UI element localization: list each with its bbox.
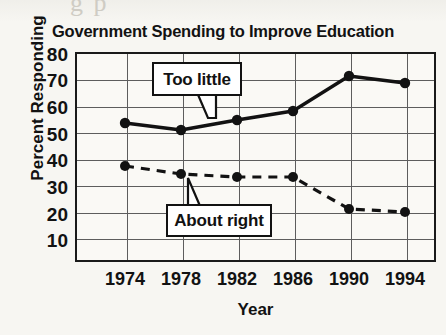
x-tick-1994: 1994 bbox=[375, 270, 435, 288]
x-tick-1982: 1982 bbox=[207, 270, 267, 288]
x-tick-1986: 1986 bbox=[263, 270, 323, 288]
callout-about-right[interactable]: About right bbox=[166, 204, 272, 237]
x-tick-1990: 1990 bbox=[319, 270, 379, 288]
point-about-right-1978 bbox=[176, 169, 186, 179]
point-too-little-1982 bbox=[232, 115, 242, 125]
chart-figure: g p Government Spending to Improve Educa… bbox=[0, 0, 446, 335]
point-about-right-1990 bbox=[344, 204, 354, 214]
point-about-right-1994 bbox=[400, 207, 410, 217]
callout-too-little[interactable]: Too little bbox=[152, 62, 242, 96]
point-too-little-1994 bbox=[400, 78, 410, 88]
point-too-little-1974 bbox=[120, 118, 130, 128]
point-too-little-1978 bbox=[176, 125, 186, 135]
point-too-little-1986 bbox=[288, 106, 298, 116]
x-axis-title: Year bbox=[75, 300, 436, 320]
point-too-little-1990 bbox=[344, 71, 354, 81]
point-about-right-1974 bbox=[120, 161, 130, 171]
x-tick-1974: 1974 bbox=[95, 270, 155, 288]
callout-tail-about-right bbox=[188, 178, 200, 206]
point-about-right-1986 bbox=[288, 172, 298, 182]
point-about-right-1982 bbox=[232, 172, 242, 182]
x-tick-1978: 1978 bbox=[151, 270, 211, 288]
